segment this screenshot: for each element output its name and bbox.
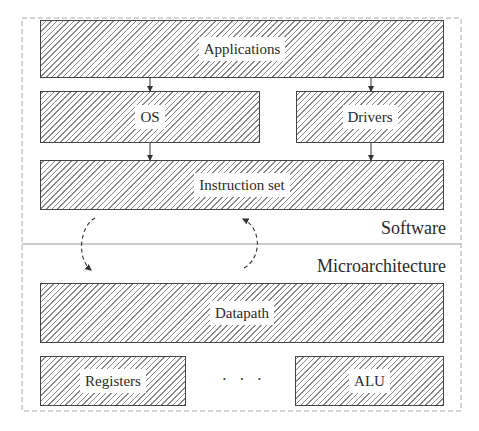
- label-drivers: Drivers: [343, 105, 398, 129]
- architecture-diagram: Applications OS Drivers Instruction set …: [0, 0, 479, 431]
- layer-label-microarchitecture: Microarchitecture: [314, 255, 449, 277]
- label-applications: Applications: [199, 37, 286, 61]
- box-drivers: Drivers: [296, 91, 444, 143]
- label-instruction-set: Instruction set: [194, 173, 289, 197]
- ellipsis: · · ·: [222, 370, 266, 388]
- box-datapath: Datapath: [40, 283, 444, 343]
- label-alu: ALU: [349, 369, 390, 393]
- box-instruction-set: Instruction set: [40, 160, 444, 210]
- label-registers: Registers: [80, 369, 146, 393]
- box-applications: Applications: [40, 20, 444, 78]
- box-os: OS: [40, 91, 260, 143]
- label-datapath: Datapath: [210, 301, 274, 325]
- box-registers: Registers: [40, 356, 186, 406]
- label-os: OS: [135, 105, 164, 129]
- box-alu: ALU: [295, 356, 444, 406]
- layer-label-software: Software: [378, 217, 449, 239]
